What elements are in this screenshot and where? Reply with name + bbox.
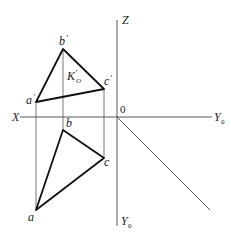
diagonal-45-line [117,117,210,210]
vertex-label-c-prime: c ′ [104,73,113,88]
vertex-label-b-prime: b ′ [59,33,69,48]
projection-diagram: Z X 0 Y 0 Y 0 b ′ a ′ c ′ K ′ O b c a [0,0,231,236]
svg-text:a: a [26,93,32,107]
x-axis-label: X [11,110,20,124]
svg-text:b: b [59,34,65,48]
region-label-k-prime-o: K ′ O [66,68,81,85]
vertex-label-a: a [28,210,34,224]
svg-text:0: 0 [128,222,132,230]
svg-text:0: 0 [221,118,225,126]
svg-text:′: ′ [33,92,36,102]
vertex-label-b: b [66,116,72,130]
yh-axis-label: Y 0 [121,214,132,230]
vertex-label-c: c [104,155,110,169]
z-axis-label: Z [122,13,129,27]
top-view-triangle [36,130,104,210]
svg-text:O: O [76,77,81,85]
svg-text:′: ′ [110,73,113,83]
yw-axis-label: Y 0 [214,110,225,126]
origin-label: 0 [120,103,126,115]
svg-text:′: ′ [66,33,69,43]
vertex-label-a-prime: a ′ [26,92,36,107]
